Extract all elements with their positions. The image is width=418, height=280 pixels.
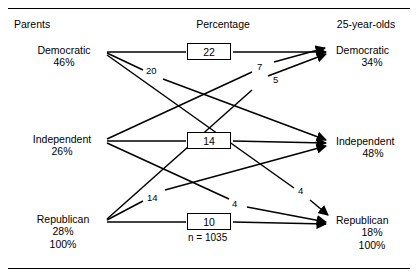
flow-box-republican-republican: 10 xyxy=(187,213,231,230)
target-node-democratic-label: Democratic xyxy=(336,44,389,56)
source-node-republican-pct: 28% xyxy=(20,225,106,237)
edge-label-democratic-republican: 4 xyxy=(297,186,304,196)
source-node-independent: Independent 26% xyxy=(18,133,106,158)
edge-label-independent-democratic: 7 xyxy=(256,62,263,72)
edge-label-republican-democratic: 5 xyxy=(272,75,279,85)
flow-box-independent-independent: 14 xyxy=(187,132,231,149)
source-node-republican-label: Republican xyxy=(37,213,90,225)
target-node-republican-label: Republican xyxy=(336,214,389,226)
target-node-democratic: Democratic 34% xyxy=(336,44,418,69)
source-total-pct: 100% xyxy=(20,238,106,250)
source-node-democratic-label: Democratic xyxy=(37,44,90,56)
source-node-democratic-pct: 46% xyxy=(22,56,106,68)
source-node-republican: Republican 28% 100% xyxy=(20,213,106,250)
target-node-independent-label: Independent xyxy=(336,135,394,147)
target-node-independent: Independent 48% xyxy=(336,135,418,160)
figure-canvas: Parents Percentage 25-year-olds Democrat… xyxy=(0,0,418,280)
column-header-parents: Parents xyxy=(14,18,50,30)
edge-label-independent-republican: 4 xyxy=(231,199,238,209)
column-header-25-year-olds: 25-year-olds xyxy=(318,18,414,30)
source-node-independent-label: Independent xyxy=(33,133,91,145)
target-node-independent-pct: 48% xyxy=(336,147,410,159)
flow-box-democratic-democratic: 22 xyxy=(187,43,231,60)
target-node-democratic-pct: 34% xyxy=(336,56,408,68)
source-node-democratic: Democratic 46% xyxy=(22,44,106,69)
column-header-percentage: Percentage xyxy=(178,18,268,30)
edge-label-republican-independent: 14 xyxy=(146,193,159,203)
edge-label-democratic-independent: 20 xyxy=(145,66,158,76)
target-node-republican-pct: 18% xyxy=(336,226,408,238)
target-node-republican: Republican 18% 100% xyxy=(336,214,418,251)
target-total-pct: 100% xyxy=(336,239,408,251)
source-node-independent-pct: 26% xyxy=(18,145,106,157)
sample-size-note: n = 1035 xyxy=(188,232,227,243)
